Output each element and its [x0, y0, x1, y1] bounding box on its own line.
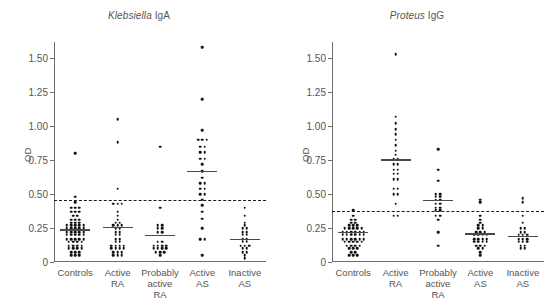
data-point	[437, 244, 440, 247]
y-tick-label: 0	[320, 257, 326, 268]
data-point	[197, 138, 200, 141]
data-point	[344, 240, 347, 243]
y-tick	[50, 262, 54, 263]
data-point	[394, 202, 397, 205]
data-point	[344, 227, 347, 230]
data-point	[76, 240, 79, 243]
y-tick-label: 1.50	[29, 53, 48, 64]
y-tick-label: 1.25	[307, 87, 326, 98]
data-point	[350, 234, 353, 237]
data-point	[159, 254, 162, 257]
mean-bar	[145, 235, 175, 236]
data-point	[201, 204, 204, 207]
data-point	[118, 247, 121, 250]
data-point	[526, 240, 529, 243]
x-category-label: Active AS	[467, 267, 493, 289]
y-tick	[50, 194, 54, 195]
data-point	[78, 254, 81, 257]
data-point	[201, 254, 204, 257]
data-point	[439, 202, 442, 205]
data-point	[74, 206, 77, 209]
data-point	[123, 247, 126, 250]
data-point	[396, 178, 399, 181]
data-point	[348, 227, 351, 230]
data-point	[76, 247, 79, 250]
y-tick-label: 0.50	[307, 189, 326, 200]
data-point	[241, 247, 244, 250]
data-point	[479, 201, 482, 204]
mean-bar	[338, 232, 368, 233]
data-point	[201, 129, 204, 132]
data-point	[116, 141, 119, 144]
data-point	[161, 240, 164, 243]
data-point	[118, 240, 121, 243]
data-point	[72, 215, 75, 218]
data-point	[352, 215, 355, 218]
panel-title-genus: Proteus	[390, 10, 425, 21]
y-tick-label: 1.00	[307, 121, 326, 132]
data-point	[524, 247, 527, 250]
data-point	[199, 182, 202, 185]
x-category-label: Controls	[58, 267, 93, 278]
y-tick-label: 1.50	[307, 53, 326, 64]
data-point	[157, 231, 160, 234]
data-point	[246, 227, 249, 230]
data-point	[74, 254, 77, 257]
data-point	[241, 227, 244, 230]
data-point	[244, 215, 247, 218]
data-point	[437, 168, 440, 171]
data-point	[74, 210, 77, 213]
data-point	[110, 247, 113, 250]
x-category-label: Controls	[336, 267, 371, 278]
data-point	[348, 247, 351, 250]
data-point	[481, 247, 484, 250]
data-point	[479, 215, 482, 218]
data-point	[114, 247, 117, 250]
data-point	[121, 202, 124, 205]
data-point	[522, 201, 525, 204]
data-point	[116, 118, 119, 121]
data-point	[121, 254, 124, 257]
data-point	[246, 240, 249, 243]
panel-title: Klebsiella IgA	[0, 10, 278, 21]
data-point	[354, 234, 357, 237]
data-point	[159, 206, 162, 209]
data-point	[116, 215, 119, 218]
data-point	[439, 209, 442, 212]
data-point	[68, 247, 71, 250]
data-point	[356, 247, 359, 250]
data-point	[396, 163, 399, 166]
data-point	[392, 178, 395, 181]
data-point	[203, 157, 206, 160]
data-point	[392, 187, 395, 190]
x-category-label: Probably active RA	[141, 267, 179, 300]
mean-bar	[230, 239, 260, 240]
y-tick	[328, 262, 332, 263]
data-point	[118, 234, 121, 237]
data-point	[437, 231, 440, 234]
data-point	[362, 234, 365, 237]
data-point	[348, 254, 351, 257]
data-point	[477, 227, 480, 230]
data-point	[201, 177, 204, 180]
data-point	[246, 247, 249, 250]
data-point	[246, 234, 249, 237]
mean-bar	[187, 171, 217, 172]
data-point	[392, 163, 395, 166]
data-point	[74, 196, 77, 199]
data-point	[155, 251, 158, 254]
data-point	[396, 215, 399, 218]
y-tick-label: 0.75	[29, 155, 48, 166]
data-point	[199, 151, 202, 154]
x-category-label: Probably active RA	[419, 267, 457, 300]
data-point	[72, 240, 75, 243]
data-point	[203, 238, 206, 241]
data-point	[116, 187, 119, 190]
data-point	[201, 138, 204, 141]
data-point	[205, 138, 208, 141]
data-point	[199, 187, 202, 190]
data-point	[66, 234, 69, 237]
data-point	[203, 193, 206, 196]
data-point	[360, 227, 363, 230]
data-point	[522, 221, 525, 224]
